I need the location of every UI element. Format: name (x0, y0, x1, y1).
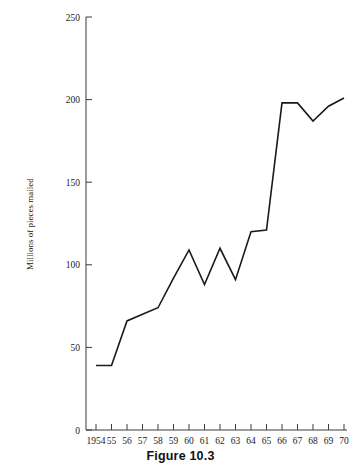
x-tick-label-61: 61 (200, 436, 210, 446)
x-tick-label-62: 62 (215, 436, 225, 446)
x-tick-label-60: 60 (184, 436, 194, 446)
x-tick-label-57: 57 (138, 436, 148, 446)
x-tick-label-68: 68 (308, 436, 318, 446)
data-series-line (96, 98, 344, 366)
x-tick-label-63: 63 (231, 436, 241, 446)
y-tick-labels: 0 50 100 150 200 250 (66, 13, 81, 436)
y-axis-label: Millions of pieces mailed (25, 178, 35, 270)
figure-container: Millions of pieces mailed 0 50 100 150 2… (0, 0, 361, 470)
y-tick-group (86, 17, 92, 430)
y-tick-label-250: 250 (66, 13, 81, 23)
y-tick-label-200: 200 (66, 95, 81, 105)
x-tick-label-58: 58 (153, 436, 163, 446)
x-tick-label-70: 70 (339, 436, 349, 446)
y-tick-label-150: 150 (66, 178, 81, 188)
figure-caption: Figure 10.3 (0, 449, 361, 463)
line-chart: Millions of pieces mailed 0 50 100 150 2… (0, 0, 361, 470)
x-tick-label-66: 66 (277, 436, 287, 446)
x-tick-label-59: 59 (169, 436, 179, 446)
y-tick-label-50: 50 (71, 343, 81, 353)
x-tick-label-56: 56 (122, 436, 132, 446)
x-tick-label-65: 65 (262, 436, 272, 446)
x-tick-labels: 195455565758596061626364656667686970 (87, 436, 350, 446)
x-tick-label-69: 69 (324, 436, 334, 446)
x-tick-label-64: 64 (246, 436, 256, 446)
x-tick-label-67: 67 (293, 436, 303, 446)
y-tick-label-100: 100 (66, 260, 81, 270)
x-tick-label-55: 55 (107, 436, 117, 446)
x-tick-group (96, 424, 344, 430)
y-tick-label-0: 0 (75, 426, 80, 436)
x-tick-label-1954: 1954 (87, 436, 106, 446)
